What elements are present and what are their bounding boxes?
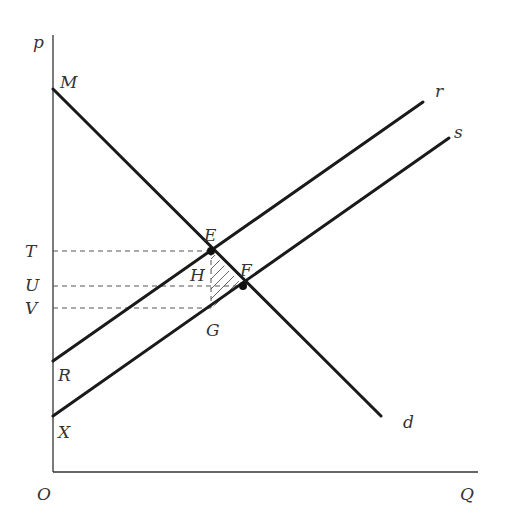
label-O: O — [37, 484, 51, 504]
label-d: d — [403, 412, 414, 432]
label-p: p — [33, 32, 44, 52]
label-U: U — [25, 275, 40, 295]
label-M: M — [59, 72, 78, 92]
label-T: T — [25, 241, 38, 261]
label-R: R — [57, 365, 71, 385]
label-E: E — [203, 225, 217, 245]
label-r: r — [435, 81, 444, 101]
supply-demand-diagram: p Q O M R X d r s E F G H T U V — [0, 0, 508, 524]
label-F: F — [239, 260, 253, 280]
point-F — [239, 282, 247, 290]
label-H: H — [189, 265, 206, 285]
supply-curve-r — [53, 102, 423, 361]
demand-curve-d — [53, 89, 381, 416]
hatched-triangle-H — [190, 250, 280, 340]
label-G: G — [206, 320, 220, 340]
label-X: X — [56, 422, 71, 442]
label-s: s — [454, 122, 463, 142]
label-V: V — [25, 298, 39, 318]
label-Q: Q — [460, 484, 474, 504]
point-E — [207, 247, 215, 255]
